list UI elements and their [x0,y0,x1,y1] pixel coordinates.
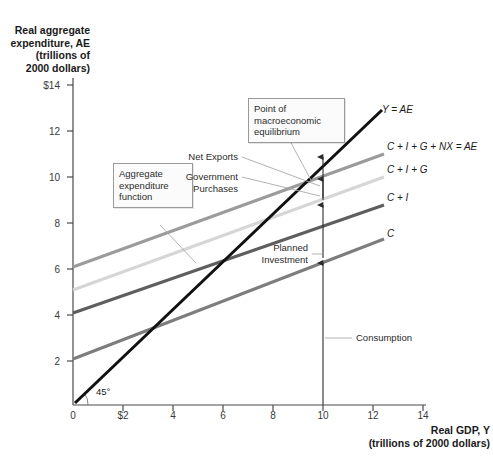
x-tick-marks [123,405,423,411]
curve-c-plus-i [73,205,384,313]
label-consumption: Consumption [356,332,446,344]
curve-label-ci: C + I [387,192,408,203]
label-planned-investment: Planned Investment [232,242,308,265]
aggregate-expenditure-chart: Real aggregate expenditure, AE (trillion… [0,0,493,467]
leader-net-exports [242,157,320,186]
label-forty-five-degree: 45° [96,386,110,397]
curve-label-cignx: C + I + G + NX = AE [387,141,477,152]
y-tick-marks [67,85,73,361]
label-net-exports: Net Exports [160,151,238,163]
curve-label-c: C [387,228,394,239]
label-government-purchases: Government Purchases [160,171,238,194]
curve-label-y-equals-ae: Y = AE [382,104,413,115]
curve-label-cig: C + I + G [387,164,428,175]
callout-point-of-macroeconomic-equilibrium: Point of macroeconomic equilibrium [248,98,345,143]
plot-area [0,0,493,467]
